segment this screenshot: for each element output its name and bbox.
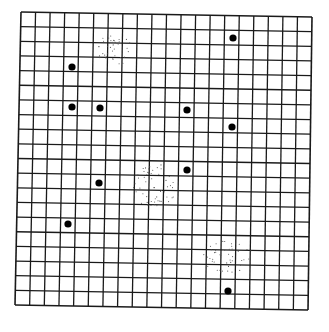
data-point-dot [64, 220, 71, 227]
stipple-cluster [203, 241, 251, 273]
grid-lines [15, 12, 312, 310]
grid-canvas [0, 0, 329, 332]
stipple-cluster [98, 35, 130, 64]
data-point-dot [95, 179, 102, 186]
data-point-dot [183, 106, 190, 113]
data-point-dot [224, 287, 231, 294]
data-point-dot [68, 63, 75, 70]
stipple-cluster [133, 164, 174, 206]
data-point-dot [229, 34, 236, 41]
grid-diagram [0, 0, 329, 332]
data-point-dot [183, 166, 190, 173]
data-point-dot [68, 103, 75, 110]
data-point-dot [228, 123, 235, 130]
data-point-dot [96, 104, 103, 111]
